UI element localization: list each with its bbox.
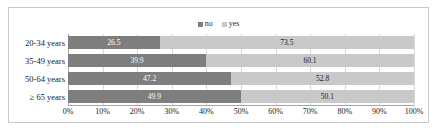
category-axis: 20-34 years35-49 years50-64 years≥ 65 ye… — [9, 34, 68, 106]
bar-value-label: 49.9 — [148, 93, 161, 101]
legend-label-yes: yes — [229, 20, 240, 28]
bar-row: 49.950.1 — [68, 88, 414, 106]
x-tick-label: 90% — [372, 107, 387, 116]
bar-value-label: 60.1 — [303, 57, 316, 65]
bar-segment-no[interactable]: 49.9 — [68, 90, 241, 103]
plot-area: 26.573.539.960.147.252.849.950.1 — [68, 34, 414, 106]
x-tick-label: 60% — [268, 107, 283, 116]
bar-segment-yes[interactable]: 52.8 — [231, 72, 414, 85]
bar-value-label: 73.5 — [280, 39, 293, 47]
bar-row: 39.960.1 — [68, 52, 414, 70]
legend-swatch-yes-icon — [222, 22, 227, 27]
bar-segment-no[interactable]: 39.9 — [68, 54, 206, 67]
legend-entry-yes[interactable]: yes — [222, 20, 240, 28]
x-tick-label: 30% — [164, 107, 179, 116]
bar-segment-yes[interactable]: 73.5 — [160, 36, 414, 49]
legend-entry-no[interactable]: no — [198, 20, 213, 28]
chart-legend: no yes — [9, 20, 428, 28]
legend-label-no: no — [205, 20, 213, 28]
category-label: ≥ 65 years — [30, 88, 65, 106]
x-tick-label: 50% — [234, 107, 249, 116]
bar-segment-yes[interactable]: 50.1 — [241, 90, 414, 103]
x-tick-label: 0% — [63, 107, 74, 116]
bar-series-group: 26.573.539.960.147.252.849.950.1 — [68, 34, 414, 106]
bar-segment-yes[interactable]: 60.1 — [206, 54, 414, 67]
value-axis: 0%10%20%30%40%50%60%70%80%90%100% — [68, 107, 414, 121]
category-label: 50-64 years — [25, 70, 65, 88]
x-tick-label: 10% — [95, 107, 110, 116]
category-label: 35-49 years — [25, 52, 65, 70]
x-tick-label: 100% — [405, 107, 424, 116]
bar-value-label: 52.8 — [316, 75, 329, 83]
x-tick-label: 70% — [303, 107, 318, 116]
bar-row: 26.573.5 — [68, 34, 414, 52]
bar-value-label: 39.9 — [130, 57, 143, 65]
chart-frame: no yes 20-34 years35-49 years50-64 years… — [8, 7, 429, 123]
bar-value-label: 47.2 — [143, 75, 156, 83]
bar-segment-no[interactable]: 47.2 — [68, 72, 231, 85]
bar-row: 47.252.8 — [68, 70, 414, 88]
bar-value-label: 50.1 — [321, 93, 334, 101]
category-label: 20-34 years — [25, 34, 65, 52]
bar-value-label: 26.5 — [107, 39, 120, 47]
x-tick-label: 40% — [199, 107, 214, 116]
x-tick-label: 20% — [130, 107, 145, 116]
legend-swatch-no-icon — [198, 22, 203, 27]
bar-segment-no[interactable]: 26.5 — [68, 36, 160, 49]
gridline — [414, 34, 415, 106]
x-tick-label: 80% — [337, 107, 352, 116]
